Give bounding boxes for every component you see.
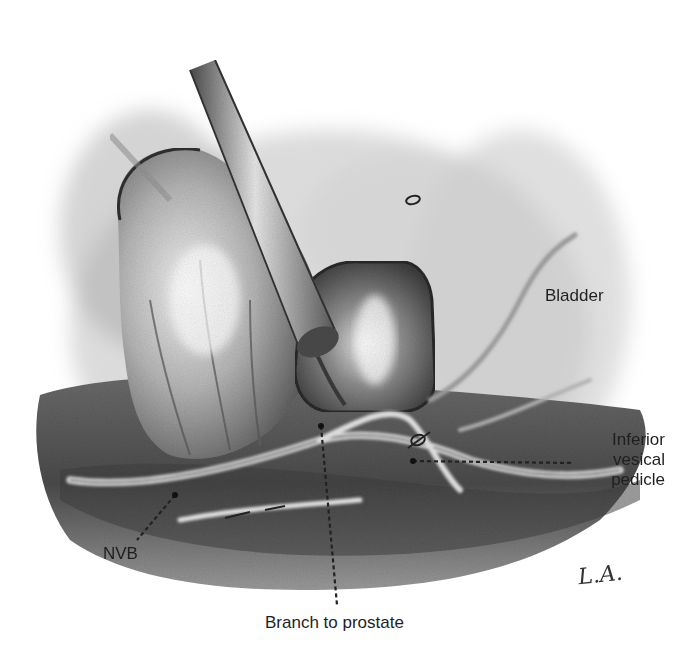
label-inferior-vesical-pedicle: Inferior vesical pedicle [611, 430, 665, 490]
label-line-2: vesical [611, 450, 665, 470]
anatomical-drawing [0, 0, 675, 661]
artist-signature: L.A. [577, 560, 624, 590]
label-branch-to-prostate: Branch to prostate [265, 613, 404, 633]
label-nvb: NVB [103, 544, 138, 564]
illustration-canvas: Bladder Inferior vesical pedicle NVB Bra… [0, 0, 675, 661]
label-line-1: Inferior [611, 430, 665, 450]
label-line-3: pedicle [611, 470, 665, 490]
label-bladder: Bladder [545, 286, 604, 306]
